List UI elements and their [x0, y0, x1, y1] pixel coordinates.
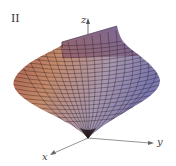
x-axis [54, 138, 88, 153]
surface-plot [0, 0, 176, 166]
z-axis-label: z [81, 14, 86, 25]
x-axis-label: x [42, 151, 48, 162]
surface-mesh [10, 26, 170, 139]
x-axis-arrow-icon [50, 150, 56, 155]
surface-plot-figure: II [0, 0, 176, 166]
y-axis [88, 138, 150, 143]
z-axis-arrow-icon [86, 18, 90, 24]
y-axis-label: y [157, 136, 163, 147]
y-axis-arrow-icon [148, 141, 154, 145]
